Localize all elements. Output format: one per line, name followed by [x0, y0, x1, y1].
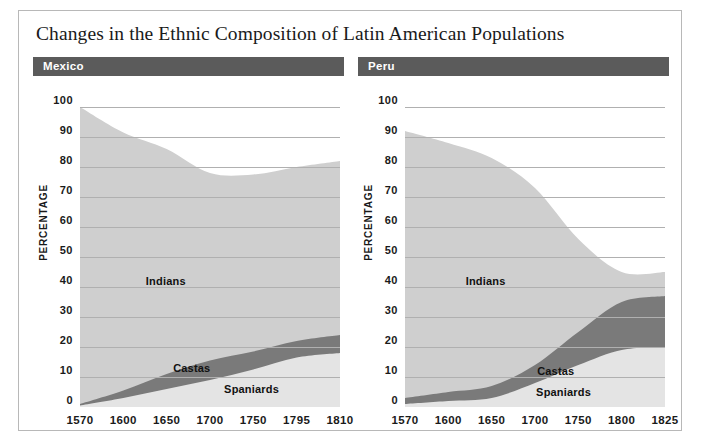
series-label-indians: Indians [146, 275, 186, 287]
y-axis-tick-label: 10 [385, 364, 398, 376]
y-axis-tick-label: 100 [378, 94, 398, 106]
y-axis-tick-label: 90 [60, 124, 73, 136]
figure-frame: Changes in the Ethnic Composition of Lat… [18, 10, 682, 431]
y-axis-tick-label: 30 [60, 304, 73, 316]
x-axis-tick-label: 1570 [66, 414, 93, 426]
y-axis-title-mexico: PERCENTAGE [38, 163, 49, 283]
panel-header-mexico: Mexico [33, 57, 344, 76]
y-axis-tick-label: 70 [60, 184, 73, 196]
series-label-indians: Indians [466, 275, 506, 287]
plot-area-mexico: 0102030405060708090100157016001650170017… [80, 107, 340, 407]
series-label-castas: Castas [173, 362, 210, 374]
x-axis-tick-label: 1750 [240, 414, 267, 426]
x-axis-tick-label: 1600 [435, 414, 462, 426]
x-axis-tick-label: 1810 [326, 414, 353, 426]
y-axis-tick-label: 60 [60, 214, 73, 226]
x-axis-tick-label: 1650 [153, 414, 180, 426]
series-label-spaniards: Spaniards [536, 386, 591, 398]
plot-area-peru: 0102030405060708090100157016001650170017… [405, 107, 665, 407]
panel-title-peru: Peru [368, 60, 395, 72]
y-axis-tick-label: 50 [60, 244, 73, 256]
panel-title-mexico: Mexico [43, 60, 84, 72]
y-axis-tick-label: 70 [385, 184, 398, 196]
series-label-spaniards: Spaniards [224, 383, 279, 395]
y-axis-tick-label: 80 [60, 154, 73, 166]
x-axis-tick-label: 1650 [478, 414, 505, 426]
x-axis-tick-label: 1700 [196, 414, 223, 426]
x-axis-tick-label: 1800 [608, 414, 635, 426]
y-axis-tick-label: 10 [60, 364, 73, 376]
panel-header-peru: Peru [358, 57, 669, 76]
x-axis-tick-label: 1825 [651, 414, 678, 426]
chart-panel-peru: Peru PERCENTAGE 010203040506070809010015… [358, 57, 669, 419]
y-axis-tick-label: 20 [385, 334, 398, 346]
page-title: Changes in the Ethnic Composition of Lat… [36, 23, 564, 45]
y-axis-tick-label: 50 [385, 244, 398, 256]
y-axis-tick-label: 80 [385, 154, 398, 166]
y-axis-tick-label: 20 [60, 334, 73, 346]
y-axis-title-peru: PERCENTAGE [363, 163, 374, 283]
y-axis-tick-label: 40 [60, 274, 73, 286]
y-axis-tick-label: 60 [385, 214, 398, 226]
x-axis-tick-label: 1750 [565, 414, 592, 426]
y-axis-tick-label: 90 [385, 124, 398, 136]
y-axis-tick-label: 0 [66, 394, 73, 406]
chart-panel-mexico: Mexico PERCENTAGE 0102030405060708090100… [33, 57, 344, 419]
y-axis-tick-label: 40 [385, 274, 398, 286]
y-axis-tick-label: 30 [385, 304, 398, 316]
x-axis-tick-label: 1700 [521, 414, 548, 426]
x-axis-tick-label: 1600 [110, 414, 137, 426]
y-axis-tick-label: 0 [391, 394, 398, 406]
x-axis-tick-label: 1795 [283, 414, 310, 426]
series-label-castas: Castas [537, 365, 574, 377]
y-axis-tick-label: 100 [53, 94, 73, 106]
chart-svg [405, 107, 665, 407]
x-axis-tick-label: 1570 [391, 414, 418, 426]
